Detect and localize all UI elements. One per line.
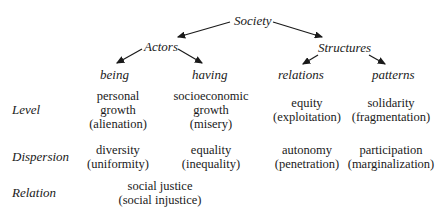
row-label-relation: Relation (12, 185, 56, 201)
cell-line: socioeconomic (174, 89, 249, 103)
arrow-society-actors (178, 22, 230, 37)
cell-line: personal (89, 89, 147, 103)
node-relations: relations (278, 68, 324, 82)
node-patterns: patterns (372, 68, 415, 82)
row-label-dispersion: Dispersion (12, 149, 69, 165)
cell-dispersion-being: diversity (uniformity) (87, 143, 149, 171)
arrow-society-structures (273, 22, 322, 37)
cell-line: diversity (87, 143, 149, 157)
cell-line: (social injustice) (119, 193, 202, 207)
cell-line: autonomy (275, 143, 340, 157)
arrow-structures-patterns (369, 55, 385, 64)
cell-line: (marginalization) (348, 157, 435, 171)
node-society: Society (234, 14, 272, 28)
cell-line: equality (182, 143, 240, 157)
cell-line: (alienation) (89, 117, 147, 131)
arrow-structures-relations (303, 55, 318, 64)
cell-level-relations: equity (exploitation) (273, 96, 341, 124)
cell-line: social justice (119, 179, 202, 193)
cell-line: (fragmentation) (352, 110, 430, 124)
cell-dispersion-patterns: participation (marginalization) (348, 143, 435, 171)
arrow-actors-having (178, 49, 202, 63)
cell-line: growth (89, 103, 147, 117)
cell-line: equity (273, 96, 341, 110)
cell-relation-actors: social justice (social injustice) (119, 179, 202, 207)
cell-line: participation (348, 143, 435, 157)
arrow-actors-being (117, 49, 142, 63)
node-being: being (100, 68, 129, 82)
cell-dispersion-relations: autonomy (penetration) (275, 143, 340, 171)
node-having: having (192, 68, 227, 82)
cell-level-being: personal growth (alienation) (89, 89, 147, 131)
cell-line: (uniformity) (87, 157, 149, 171)
cell-level-having: socioeconomic growth (misery) (174, 89, 249, 131)
node-actors: Actors (144, 40, 178, 54)
cell-line: (penetration) (275, 157, 340, 171)
cell-dispersion-having: equality (inequality) (182, 143, 240, 171)
cell-line: (inequality) (182, 157, 240, 171)
cell-line: growth (174, 103, 249, 117)
row-label-level: Level (12, 102, 40, 118)
cell-line: (exploitation) (273, 110, 341, 124)
cell-line: (misery) (174, 117, 249, 131)
node-structures: Structures (318, 41, 371, 55)
cell-level-patterns: solidarity (fragmentation) (352, 96, 430, 124)
cell-line: solidarity (352, 96, 430, 110)
